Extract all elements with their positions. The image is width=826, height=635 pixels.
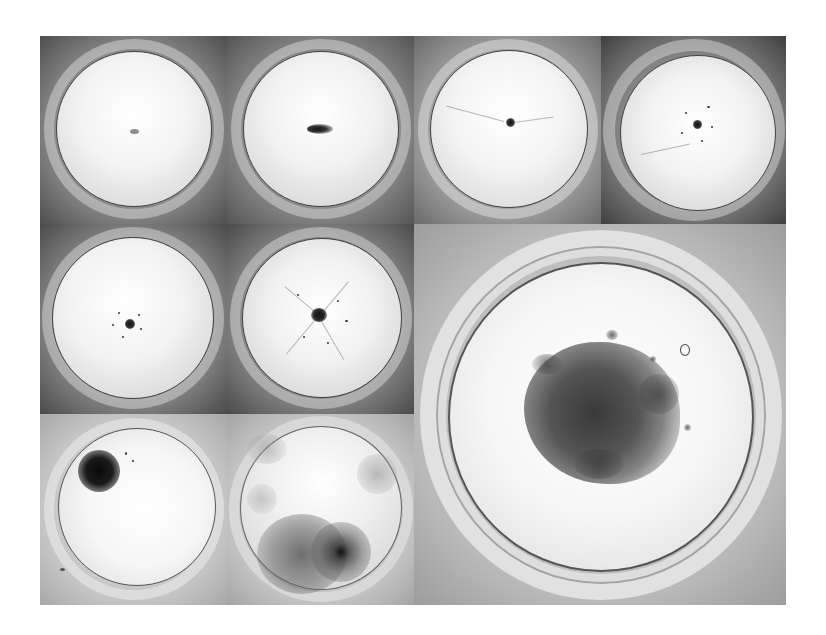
colony bbox=[307, 124, 333, 134]
colony bbox=[78, 450, 120, 492]
dish-panel-6 bbox=[227, 224, 414, 414]
dish-panel-5 bbox=[40, 224, 227, 414]
colony bbox=[311, 522, 371, 582]
petri-dish-montage bbox=[40, 36, 786, 605]
dish-interior bbox=[620, 55, 776, 211]
colony bbox=[693, 120, 702, 129]
dish-panel-2 bbox=[227, 36, 414, 224]
dish-panel-3 bbox=[414, 36, 601, 224]
dish-panel-1 bbox=[40, 36, 227, 224]
satellite-colony bbox=[650, 356, 656, 362]
dish-interior bbox=[58, 428, 216, 586]
dish-interior bbox=[430, 50, 588, 208]
dish-panel-8 bbox=[40, 414, 227, 605]
satellite-colony bbox=[606, 330, 618, 340]
dish-panel-9 bbox=[227, 414, 414, 605]
dish-interior bbox=[52, 237, 214, 399]
dish-panel-large bbox=[414, 224, 786, 605]
dish-panel-4 bbox=[601, 36, 786, 224]
bubble bbox=[680, 344, 690, 356]
colony bbox=[125, 319, 135, 329]
satellite-colony bbox=[684, 424, 691, 431]
colony bbox=[130, 129, 139, 134]
